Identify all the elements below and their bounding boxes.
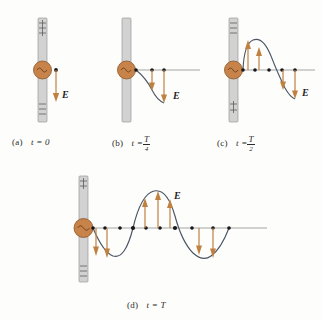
- panel-d-diagram: [55, 168, 275, 293]
- field-point-dot: [241, 68, 245, 72]
- field-vector-down: [210, 228, 216, 258]
- caption-d-tag: (d): [127, 300, 138, 310]
- caption-d: (d) t = T: [127, 300, 166, 310]
- field-label-b: E: [173, 90, 180, 101]
- field-label-c: E: [302, 87, 309, 98]
- panel-c: E: [207, 4, 323, 132]
- field-point-dot: [267, 68, 271, 72]
- physics-figure: E (a) t = 0: [0, 0, 323, 320]
- caption-c-time: t =T2: [236, 138, 255, 148]
- field-point-dot: [253, 68, 257, 72]
- field-point-dot: [131, 226, 135, 230]
- caption-c-numerator: T: [247, 135, 254, 145]
- panel-d: E: [55, 168, 275, 293]
- caption-a: (a) t = 0: [12, 137, 50, 147]
- field-point-dot: [190, 226, 194, 230]
- caption-c-denominator: 2: [247, 145, 254, 153]
- field-label-d: E: [174, 190, 181, 201]
- field-point-dot: [134, 68, 138, 72]
- field-point-dot: [158, 226, 162, 230]
- caption-c: (c) t =T2: [217, 135, 255, 153]
- field-vector-up: [142, 198, 148, 228]
- caption-c-tag: (c): [217, 138, 228, 148]
- panel-a: E: [0, 4, 105, 132]
- field-vector-down: [292, 70, 298, 99]
- field-point-dot: [91, 226, 95, 230]
- field-vector-down: [149, 70, 155, 91]
- panel-c-diagram: [207, 4, 323, 132]
- field-vector-down: [161, 70, 167, 103]
- field-label-a: E: [62, 89, 69, 100]
- caption-d-time: t = T: [147, 300, 166, 310]
- field-vector-up: [256, 47, 262, 70]
- field-point-dot: [173, 226, 177, 230]
- field-vector-up: [167, 199, 173, 228]
- panel-b-diagram: [100, 4, 212, 132]
- caption-b-denominator: 4: [143, 145, 150, 153]
- caption-a-tag: (a): [12, 137, 23, 147]
- caption-b-time: t =T4: [132, 138, 151, 148]
- wave-curve: [93, 191, 229, 259]
- caption-b: (b) t =T4: [112, 135, 150, 153]
- panel-b: E: [100, 4, 212, 132]
- field-point-dot: [103, 226, 107, 230]
- caption-b-numerator: T: [143, 135, 150, 145]
- wave-curve: [136, 70, 164, 103]
- field-vector-down: [93, 228, 99, 256]
- caption-a-time: t = 0: [31, 137, 50, 147]
- field-point-dot: [118, 226, 122, 230]
- field-vector-up: [245, 40, 251, 70]
- caption-b-tag: (b): [112, 138, 123, 148]
- field-vector-down: [196, 228, 202, 255]
- field-vector-down: [53, 70, 59, 102]
- field-point-dot: [227, 226, 231, 230]
- field-vector-up: [155, 191, 161, 228]
- panel-a-diagram: [0, 4, 105, 132]
